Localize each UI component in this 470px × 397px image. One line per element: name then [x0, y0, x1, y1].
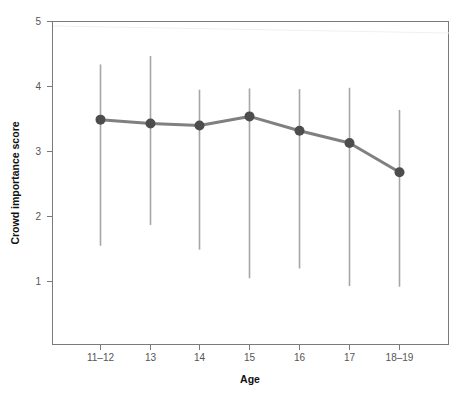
y-tick-label-3: 3	[35, 146, 41, 157]
data-point-marker	[96, 115, 106, 125]
data-point-marker	[295, 126, 305, 136]
x-tick-label-4: 16	[294, 352, 306, 363]
x-tick-label-5: 17	[344, 352, 356, 363]
data-point-marker	[395, 167, 405, 177]
data-point-marker	[146, 119, 156, 129]
data-point-marker	[345, 138, 355, 148]
x-tick-label-6: 18–19	[386, 352, 414, 363]
data-point-marker	[245, 111, 255, 121]
y-axis-title: Crowd importance score	[9, 121, 21, 244]
x-axis-title: Age	[240, 373, 260, 385]
y-tick-label-5: 5	[35, 16, 41, 27]
x-tick-label-2: 14	[194, 352, 206, 363]
x-tick-label-1: 13	[145, 352, 157, 363]
line-chart-figure: 5 4 3 2 1 Crowd importance score 11–12 1…	[0, 0, 470, 397]
x-tick-label-3: 15	[244, 352, 256, 363]
y-tick-label-4: 4	[35, 81, 41, 92]
x-tick-label-0: 11–12	[87, 352, 115, 363]
y-tick-label-1: 1	[35, 276, 41, 287]
y-tick-label-2: 2	[35, 211, 41, 222]
data-point-marker	[195, 121, 205, 131]
